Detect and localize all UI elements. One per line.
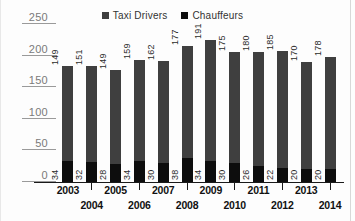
bar-value-label-taxi-drivers: 162 xyxy=(146,44,156,60)
bar-segment-taxi-drivers[interactable]: 191 xyxy=(205,40,216,161)
bar-slot: 16230 xyxy=(151,24,175,182)
bar-segment-taxi-drivers[interactable]: 162 xyxy=(158,61,169,163)
legend-swatch-icon xyxy=(102,12,109,19)
legend-label: Taxi Drivers xyxy=(113,10,168,21)
bar-value-label-taxi-drivers: 159 xyxy=(122,43,132,59)
bar-slot: 17820 xyxy=(318,24,342,182)
legend-item[interactable]: Taxi Drivers xyxy=(102,10,168,21)
bar-segment-chauffeurs[interactable]: 20 xyxy=(301,169,312,182)
x-axis-tick xyxy=(330,183,331,190)
bar-segment-taxi-drivers[interactable]: 185 xyxy=(277,51,288,168)
bar-value-label-chauffeurs: 38 xyxy=(170,170,180,180)
stacked-bar[interactable]: 17530 xyxy=(229,52,240,182)
bar-value-label-chauffeurs: 30 xyxy=(146,170,156,180)
bar-value-label-chauffeurs: 30 xyxy=(217,170,227,180)
bar-segment-chauffeurs[interactable]: 38 xyxy=(182,158,193,182)
bar-segment-taxi-drivers[interactable]: 178 xyxy=(325,57,336,169)
bar-value-label-chauffeurs: 20 xyxy=(313,170,323,180)
stacked-bar[interactable]: 15132 xyxy=(86,66,97,182)
x-axis-label: 2010 xyxy=(223,199,246,211)
x-axis-slot: 2012 xyxy=(270,183,294,221)
gridline xyxy=(22,86,56,87)
legend-swatch-icon xyxy=(181,12,188,19)
x-axis-label: 2008 xyxy=(176,199,199,211)
bar-segment-chauffeurs[interactable]: 34 xyxy=(205,161,216,182)
gridline xyxy=(22,118,56,119)
stacked-bar[interactable]: 17020 xyxy=(301,62,312,182)
bar-segment-chauffeurs[interactable]: 34 xyxy=(62,161,73,182)
x-axis-label: 2012 xyxy=(271,199,294,211)
bar-value-label-chauffeurs: 20 xyxy=(289,170,299,180)
bar-value-label-taxi-drivers: 151 xyxy=(74,50,84,66)
bar-value-label-chauffeurs: 34 xyxy=(193,170,203,180)
x-axis-tick xyxy=(91,183,92,190)
bar-segment-chauffeurs[interactable]: 22 xyxy=(277,168,288,182)
x-axis: 2003200420052006200720082009201020112012… xyxy=(56,183,342,221)
legend-label: Chauffeurs xyxy=(192,10,243,21)
x-axis-label: 2006 xyxy=(128,199,151,211)
bar-segment-taxi-drivers[interactable]: 170 xyxy=(301,62,312,169)
y-axis-label: 200 xyxy=(29,43,48,55)
bar-slot: 15132 xyxy=(80,24,104,182)
bar-value-label-taxi-drivers: 149 xyxy=(50,50,60,66)
x-axis-slot: 2005 xyxy=(104,183,128,221)
x-axis-slot: 2007 xyxy=(151,183,175,221)
bar-segment-taxi-drivers[interactable]: 177 xyxy=(182,46,193,158)
stacked-bar[interactable]: 17738 xyxy=(182,46,193,182)
bar-segment-taxi-drivers[interactable]: 149 xyxy=(110,70,121,164)
x-axis-slot: 2011 xyxy=(247,183,271,221)
stacked-bar[interactable]: 14934 xyxy=(62,66,73,182)
bar-segment-chauffeurs[interactable]: 20 xyxy=(325,169,336,182)
bar-segment-chauffeurs[interactable]: 28 xyxy=(110,164,121,182)
y-axis-label: 150 xyxy=(29,74,48,86)
bar-segment-chauffeurs[interactable]: 30 xyxy=(158,163,169,182)
stacked-bar[interactable]: 14928 xyxy=(110,70,121,182)
bar-value-label-chauffeurs: 26 xyxy=(241,170,251,180)
bar-value-label-taxi-drivers: 177 xyxy=(170,30,180,46)
x-axis-slot: 2014 xyxy=(318,183,342,221)
stacked-bar[interactable]: 18522 xyxy=(277,51,288,182)
x-axis-tick xyxy=(139,183,140,190)
x-axis-label: 2003 xyxy=(57,184,80,196)
x-axis-tick xyxy=(282,183,283,190)
x-axis-label: 2007 xyxy=(152,184,175,196)
stacked-bar[interactable]: 18026 xyxy=(253,52,264,182)
bar-segment-taxi-drivers[interactable]: 151 xyxy=(86,66,97,161)
x-axis-slot: 2004 xyxy=(80,183,104,221)
bar-value-label-chauffeurs: 34 xyxy=(50,170,60,180)
y-axis-label: 100 xyxy=(29,106,48,118)
canvas-right-border xyxy=(350,0,351,221)
chart-legend: Taxi DriversChauffeurs xyxy=(0,10,351,21)
y-axis-label: 250 xyxy=(29,11,48,23)
bar-value-label-taxi-drivers: 175 xyxy=(217,36,227,52)
bar-slot: 14934 xyxy=(56,24,80,182)
bar-segment-taxi-drivers[interactable]: 175 xyxy=(229,52,240,163)
stacked-bar[interactable]: 17820 xyxy=(325,57,336,182)
bar-segment-chauffeurs[interactable]: 32 xyxy=(86,162,97,182)
bar-segment-chauffeurs[interactable]: 30 xyxy=(229,163,240,182)
legend-item[interactable]: Chauffeurs xyxy=(181,10,243,21)
bar-value-label-chauffeurs: 22 xyxy=(265,170,275,180)
x-axis-label: 2013 xyxy=(295,184,318,196)
bar-segment-taxi-drivers[interactable]: 180 xyxy=(253,52,264,166)
bar-value-label-chauffeurs: 32 xyxy=(74,170,84,180)
x-axis-label: 2009 xyxy=(200,184,223,196)
stacked-bar[interactable]: 15934 xyxy=(134,60,145,182)
bar-value-label-taxi-drivers: 170 xyxy=(289,45,299,61)
bar-value-label-taxi-drivers: 178 xyxy=(313,40,323,56)
bar-segment-chauffeurs[interactable]: 34 xyxy=(134,161,145,182)
plot-area: 1493415132149281593416230177381913417530… xyxy=(56,24,342,182)
bar-value-label-chauffeurs: 28 xyxy=(98,170,108,180)
y-axis-label: 0 xyxy=(42,169,48,181)
stacked-bar-chart: Taxi DriversChauffeurs 250200150100500 1… xyxy=(0,0,355,221)
bar-segment-taxi-drivers[interactable]: 149 xyxy=(62,66,73,160)
bar-value-label-taxi-drivers: 191 xyxy=(193,23,203,39)
x-axis-slot: 2010 xyxy=(223,183,247,221)
y-axis: 250200150100500 xyxy=(0,24,56,182)
bar-segment-taxi-drivers[interactable]: 159 xyxy=(134,60,145,160)
bar-segment-chauffeurs[interactable]: 26 xyxy=(253,166,264,182)
stacked-bar[interactable]: 19134 xyxy=(205,40,216,182)
x-axis-label: 2011 xyxy=(248,184,270,196)
stacked-bar[interactable]: 16230 xyxy=(158,61,169,182)
x-axis-label: 2004 xyxy=(80,199,103,211)
